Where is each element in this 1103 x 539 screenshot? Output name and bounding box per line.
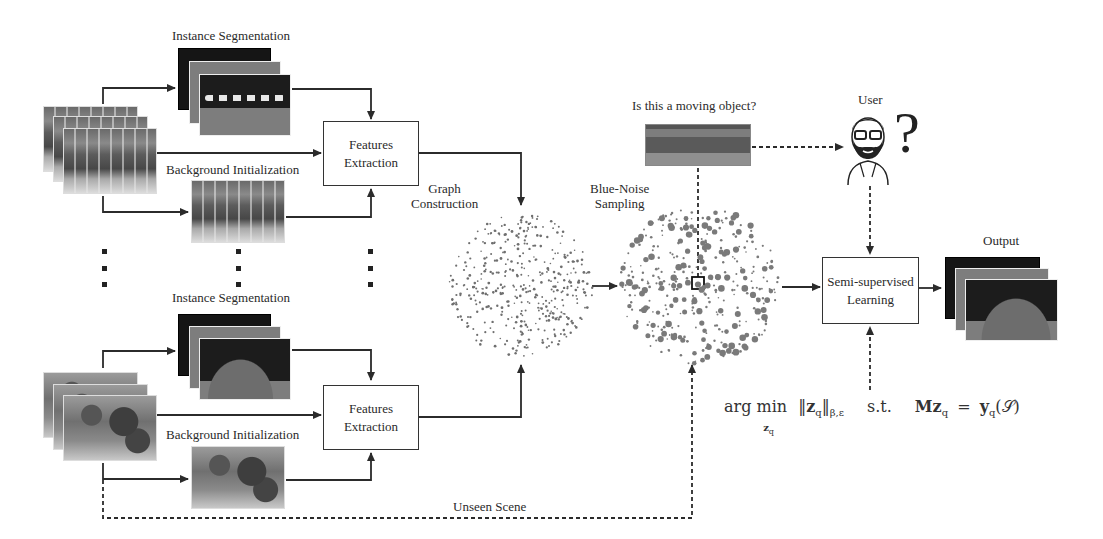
background-initialization-label-top: Background Initialization bbox=[166, 163, 299, 178]
background-initialization-label-bottom: Background Initialization bbox=[166, 428, 299, 443]
input-frame-bottom-3 bbox=[63, 395, 157, 461]
segmentation-blobs-top bbox=[205, 95, 285, 101]
arrow-features-to-graph-bottom bbox=[418, 365, 521, 417]
features-extraction-line1: Features bbox=[349, 400, 393, 418]
unseen-scene-label: Unseen Scene bbox=[453, 500, 526, 515]
query-sample-image bbox=[645, 124, 751, 166]
diagram-connectors bbox=[0, 0, 1103, 539]
segmentation-frame-top-3 bbox=[199, 74, 291, 136]
blue-noise-point-cloud bbox=[619, 209, 779, 365]
user-avatar-icon bbox=[842, 111, 900, 185]
ssl-line2: Learning bbox=[847, 291, 894, 309]
arrow-input-to-bg-top bbox=[103, 196, 188, 212]
graph-construction-label: Graph Construction bbox=[411, 182, 478, 212]
segmentation-frame-bottom-3 bbox=[199, 338, 291, 400]
blue-noise-sampling-label: Blue-Noise Sampling bbox=[590, 182, 649, 212]
ssl-line1: Semi-supervised bbox=[827, 273, 914, 291]
arrow-bg-to-features-bottom bbox=[286, 453, 371, 480]
optimization-equation: arg min zq ‖zq‖β,ε s.t. Mzq = yq(𝒮) bbox=[724, 397, 1020, 436]
arrow-input-to-seg-bottom bbox=[103, 351, 175, 368]
arrow-input-to-bg-bottom bbox=[103, 463, 188, 479]
background-frame-top bbox=[191, 180, 285, 243]
input-frame-top-3 bbox=[63, 128, 157, 194]
features-extraction-line1: Features bbox=[349, 136, 393, 154]
user-label: User bbox=[858, 93, 883, 108]
arrow-seg-to-features-bottom bbox=[292, 350, 371, 380]
instance-segmentation-label-bottom: Instance Segmentation bbox=[172, 291, 290, 306]
output-label: Output bbox=[983, 234, 1019, 249]
features-extraction-box-bottom: Features Extraction bbox=[323, 385, 419, 450]
question-mark-icon: ? bbox=[894, 104, 920, 162]
arrow-bg-to-features-top bbox=[286, 189, 371, 217]
output-frame-3 bbox=[965, 279, 1058, 341]
features-extraction-line2: Extraction bbox=[344, 418, 398, 436]
features-extraction-line2: Extraction bbox=[344, 154, 398, 172]
instance-segmentation-label-top: Instance Segmentation bbox=[172, 29, 290, 44]
graph-construction-point-cloud bbox=[449, 215, 594, 357]
semi-supervised-learning-box: Semi-supervised Learning bbox=[822, 257, 919, 324]
features-extraction-box-top: Features Extraction bbox=[323, 121, 419, 186]
arrow-seg-to-features-top bbox=[292, 89, 371, 119]
moving-object-question-label: Is this a moving object? bbox=[632, 99, 756, 114]
background-frame-bottom bbox=[191, 446, 285, 509]
arrow-input-to-seg-top bbox=[103, 88, 175, 104]
